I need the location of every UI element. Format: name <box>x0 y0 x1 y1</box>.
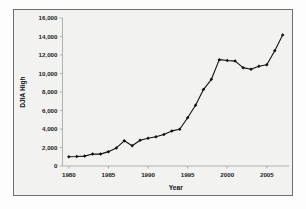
djia-high-line-chart: 02,0004,0006,0008,00010,00012,00014,0001… <box>0 0 306 209</box>
data-point-marker <box>67 155 71 159</box>
data-point-marker <box>154 135 158 139</box>
y-tick-label: 4,000 <box>42 125 58 132</box>
y-tick-label: 14,000 <box>39 33 58 40</box>
figure-container: 02,0004,0006,0008,00010,00012,00014,0001… <box>0 0 306 209</box>
y-tick-label: 6,000 <box>42 107 58 114</box>
x-axis-tick-labels: 198019851990199520002005 <box>62 171 274 178</box>
data-point-marker <box>107 150 111 154</box>
data-point-marker <box>99 152 103 156</box>
x-tick-label: 1990 <box>141 171 155 178</box>
data-point-marker <box>83 154 87 158</box>
y-axis-tick-labels: 02,0004,0006,0008,00010,00012,00014,0001… <box>39 14 58 169</box>
x-tick-label: 1980 <box>62 171 76 178</box>
x-axis-group: 198019851990199520002005 <box>62 166 289 178</box>
data-point-marker <box>91 152 95 156</box>
series-line-djia-high <box>69 35 283 157</box>
y-axis-title: DJIA High <box>19 76 27 107</box>
plot-wrapper: 02,0004,0006,0008,00010,00012,00014,0001… <box>0 0 306 209</box>
x-tick-label: 1995 <box>181 171 195 178</box>
y-tick-label: 12,000 <box>39 51 58 58</box>
data-point-marker <box>257 65 261 69</box>
x-axis-title: Year <box>169 184 183 191</box>
data-point-marker <box>162 133 166 137</box>
y-tick-label: 16,000 <box>39 14 58 21</box>
x-tick-label: 2000 <box>220 171 234 178</box>
series-markers-djia-high <box>67 33 284 158</box>
data-point-marker <box>170 129 174 133</box>
y-tick-label: 8,000 <box>42 88 58 95</box>
x-tick-label: 2005 <box>260 171 274 178</box>
data-point-marker <box>75 155 79 159</box>
data-series-group <box>67 33 284 158</box>
data-point-marker <box>249 68 253 72</box>
y-axis-group: 02,0004,0006,0008,00010,00012,00014,0001… <box>39 14 63 169</box>
data-point-marker <box>225 59 229 63</box>
y-tick-label: 10,000 <box>39 70 58 77</box>
y-tick-label: 0 <box>54 162 58 169</box>
y-tick-label: 2,000 <box>42 144 58 151</box>
data-point-marker <box>146 137 150 141</box>
x-tick-label: 1985 <box>102 171 116 178</box>
data-point-marker <box>218 58 222 62</box>
